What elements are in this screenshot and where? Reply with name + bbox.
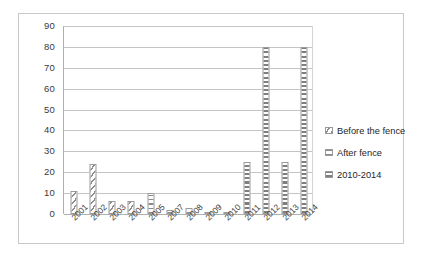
y-axis-tick-label: 40 bbox=[44, 126, 55, 136]
y-axis-tick-label: 60 bbox=[44, 84, 55, 94]
plot-area bbox=[63, 26, 313, 214]
bar-slot bbox=[179, 26, 198, 214]
legend-label: Before the fence bbox=[337, 126, 405, 136]
y-axis-tick-label: 0 bbox=[50, 209, 55, 219]
x-axis: 2001200220032004200520072008200920102011… bbox=[63, 216, 313, 258]
bar-group bbox=[64, 26, 312, 214]
bar[interactable] bbox=[262, 47, 269, 214]
bar-slot bbox=[237, 26, 256, 214]
bar-slot bbox=[141, 26, 160, 214]
y-axis-tick-label: 80 bbox=[44, 42, 55, 52]
bar[interactable] bbox=[243, 162, 250, 214]
bar-slot bbox=[83, 26, 102, 214]
bar-slot bbox=[256, 26, 275, 214]
chart-frame: 9080706050403020100 20012002200320042005… bbox=[18, 13, 404, 244]
bar[interactable] bbox=[301, 47, 308, 214]
legend-item[interactable]: After fence bbox=[325, 144, 421, 161]
legend-item[interactable]: Before the fence bbox=[325, 122, 421, 139]
chart-legend: Before the fenceAfter fence2010-2014 bbox=[325, 122, 421, 188]
bar-slot bbox=[276, 26, 295, 214]
legend-swatch-icon bbox=[325, 149, 333, 156]
y-axis: 9080706050403020100 bbox=[19, 26, 61, 214]
y-axis-tick-label: 10 bbox=[44, 188, 55, 198]
bar-slot bbox=[199, 26, 218, 214]
bar-slot bbox=[295, 26, 314, 214]
legend-label: After fence bbox=[337, 148, 382, 158]
legend-item[interactable]: 2010-2014 bbox=[325, 166, 421, 183]
y-axis-tick-label: 70 bbox=[44, 63, 55, 73]
chart-screenshot: 9080706050403020100 20012002200320042005… bbox=[0, 0, 422, 267]
bar-slot bbox=[102, 26, 121, 214]
legend-swatch-icon bbox=[325, 171, 333, 178]
y-axis-tick-label: 20 bbox=[44, 167, 55, 177]
y-axis-tick-label: 50 bbox=[44, 105, 55, 115]
bar-slot bbox=[160, 26, 179, 214]
legend-swatch-icon bbox=[325, 127, 333, 134]
y-axis-tick-label: 90 bbox=[44, 21, 55, 31]
y-axis-tick-label: 30 bbox=[44, 147, 55, 157]
legend-label: 2010-2014 bbox=[337, 170, 381, 180]
bar-slot bbox=[64, 26, 83, 214]
bar-slot bbox=[122, 26, 141, 214]
bar-slot bbox=[218, 26, 237, 214]
